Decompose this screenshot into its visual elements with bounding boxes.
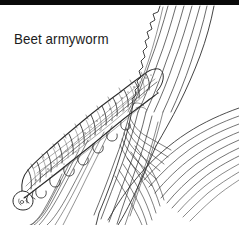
- caterpillar-dorsal-outline: [22, 69, 155, 191]
- caterpillar-eye: [20, 200, 23, 203]
- caterpillar-ventral-outline: [24, 93, 158, 198]
- figure-caption-label: Beet armyworm: [14, 31, 109, 48]
- leaf-secondary: [108, 108, 239, 221]
- illustration-figure: Beet armyworm: [0, 0, 239, 225]
